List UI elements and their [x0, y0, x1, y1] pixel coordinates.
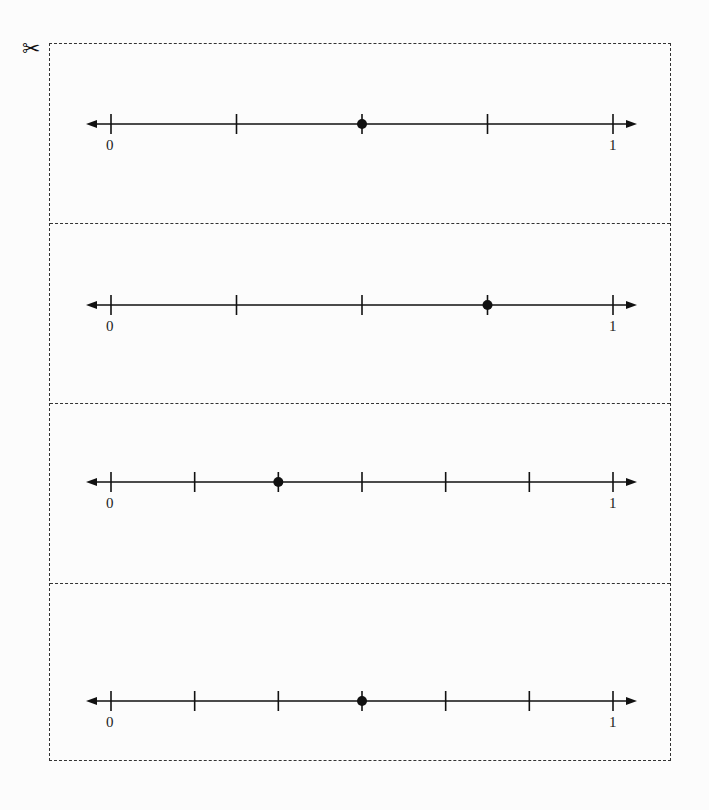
cutout-card: 0 1 0 1 0 1 0 1	[49, 43, 671, 761]
number-line-panel-3: 0 1	[50, 403, 670, 583]
number-line-2	[50, 224, 672, 404]
end-label: 1	[609, 318, 617, 335]
number-line-panel-4: 0 1	[50, 583, 670, 762]
number-line-3	[50, 404, 672, 584]
end-label: 1	[609, 137, 617, 154]
start-label: 0	[106, 714, 114, 731]
end-label: 1	[609, 714, 617, 731]
number-line-1	[50, 44, 672, 223]
start-label: 0	[106, 495, 114, 512]
scissors-icon: ✂	[22, 38, 40, 60]
number-line-panel-1: 0 1	[50, 44, 670, 223]
end-label: 1	[609, 495, 617, 512]
number-line-panel-2: 0 1	[50, 223, 670, 403]
start-label: 0	[106, 137, 114, 154]
number-line-4	[50, 584, 672, 763]
start-label: 0	[106, 318, 114, 335]
